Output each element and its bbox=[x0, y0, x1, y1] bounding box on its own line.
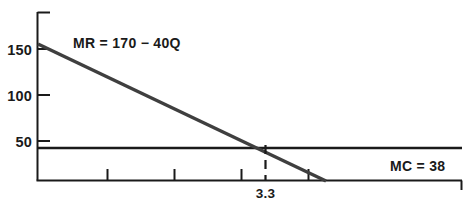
y-tick-label-50: 50 bbox=[4, 134, 32, 150]
y-tick-label-100: 100 bbox=[4, 88, 32, 104]
mr-equation-label: MR = 170 − 40Q bbox=[73, 35, 181, 51]
chart-plot-area bbox=[0, 0, 473, 211]
mc-equation-label: MC = 38 bbox=[390, 158, 445, 174]
mr-line bbox=[38, 44, 326, 181]
x-tick-label-3-3: 3.3 bbox=[243, 186, 288, 201]
chart-figure: 150 100 50 3.3 MR = 170 − 40Q MC = 38 bbox=[0, 0, 473, 211]
y-tick-label-150: 150 bbox=[4, 42, 32, 58]
